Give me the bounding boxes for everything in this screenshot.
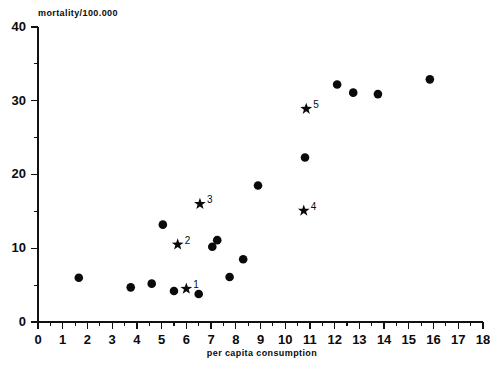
- x-tick-label: 14: [377, 332, 392, 347]
- y-tick-label: 30: [12, 93, 26, 108]
- x-tick-label: 3: [109, 332, 116, 347]
- data-point-circle: [74, 273, 83, 282]
- axis-tick-labels: 0102030400123456789101112131415161718: [12, 19, 491, 347]
- data-point-circle: [426, 75, 435, 84]
- x-tick-label: 15: [402, 332, 416, 347]
- data-point-circle: [301, 153, 310, 162]
- data-point-circle: [170, 287, 179, 296]
- data-point-star-2: [172, 238, 184, 249]
- y-tick-label: 40: [12, 19, 26, 34]
- star-label-5: 5: [313, 99, 319, 110]
- x-tick-label: 1: [59, 332, 66, 347]
- data-point-circle: [349, 88, 358, 97]
- x-tick-label: 13: [352, 332, 366, 347]
- x-tick-label: 4: [133, 332, 141, 347]
- y-tick-label: 20: [12, 166, 26, 181]
- data-point-circle: [126, 283, 135, 292]
- star-label-2: 2: [185, 235, 191, 246]
- data-point-circle: [213, 236, 222, 245]
- data-point-star-5: [300, 103, 312, 114]
- data-point-circle: [147, 279, 156, 288]
- x-tick-label: 8: [232, 332, 239, 347]
- data-point-star-3: [194, 198, 206, 209]
- data-point-circle: [333, 80, 342, 89]
- data-point-circle: [254, 181, 263, 190]
- x-tick-label: 7: [207, 332, 214, 347]
- y-tick-label: 0: [19, 314, 26, 329]
- x-tick-label: 18: [476, 332, 490, 347]
- y-axis-title: mortality/100.000: [38, 8, 118, 18]
- plot-canvas: 0102030400123456789101112131415161718 12…: [0, 0, 501, 371]
- data-point-circle: [225, 273, 234, 282]
- data-point-star-4: [298, 204, 310, 215]
- data-point-circle: [374, 90, 383, 99]
- x-tick-label: 17: [451, 332, 465, 347]
- x-tick-label: 16: [426, 332, 440, 347]
- star-label-3: 3: [207, 194, 213, 205]
- x-tick-label: 12: [327, 332, 341, 347]
- data-point-star-1: [180, 283, 192, 294]
- data-markers: [74, 75, 434, 298]
- x-tick-label: 9: [257, 332, 264, 347]
- star-point-labels: 12345: [185, 99, 320, 290]
- y-tick-label: 10: [12, 240, 26, 255]
- star-label-1: 1: [193, 279, 199, 290]
- axes: [38, 27, 483, 322]
- data-point-circle: [194, 290, 203, 299]
- star-label-4: 4: [311, 201, 317, 212]
- x-tick-label: 6: [183, 332, 190, 347]
- axis-ticks: [31, 27, 483, 329]
- x-tick-label: 0: [34, 332, 41, 347]
- x-axis-title: per capita consumption: [207, 348, 317, 358]
- x-tick-label: 11: [303, 332, 317, 347]
- scatter-plot-figure: 0102030400123456789101112131415161718 12…: [0, 0, 501, 371]
- x-tick-label: 10: [278, 332, 292, 347]
- x-tick-label: 2: [84, 332, 91, 347]
- data-point-circle: [159, 220, 168, 229]
- data-point-circle: [239, 255, 248, 264]
- x-tick-label: 5: [158, 332, 165, 347]
